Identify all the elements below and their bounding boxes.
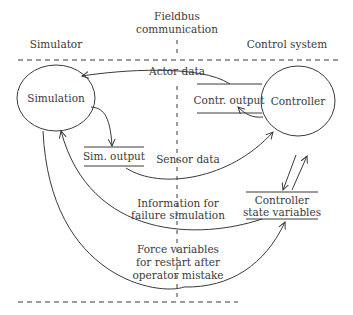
contr-output-label: Contr. output bbox=[194, 94, 266, 106]
simulation-label: Simulation bbox=[27, 92, 85, 104]
failure-info-label-line1: Information for bbox=[137, 197, 220, 209]
actor-data-label: Actor data bbox=[148, 65, 205, 77]
sensor-data-label: Sensor data bbox=[156, 153, 220, 165]
controller-to-output-arrow bbox=[238, 107, 263, 117]
dataflow-diagram: Simulator Fieldbus communication Control… bbox=[0, 0, 353, 315]
region-label-control-system: Control system bbox=[247, 38, 328, 50]
force-variables-label-line2: for restart after bbox=[136, 256, 221, 268]
sim-output-store: Sim. output bbox=[83, 147, 146, 166]
force-variables-label-line1: Force variables bbox=[137, 243, 219, 255]
force-variables-label-line3: operator mistake bbox=[132, 269, 223, 281]
simulation-to-output-arrow bbox=[91, 107, 112, 146]
controller-label: Controller bbox=[271, 95, 327, 107]
region-label-fieldbus-line1: Fieldbus bbox=[154, 10, 200, 22]
controller-node: Controller bbox=[261, 66, 335, 136]
controller-state-store: Controller state variables bbox=[243, 192, 321, 219]
failure-info-label-line2: failure simulation bbox=[131, 209, 225, 221]
contr-output-store: Contr. output bbox=[194, 84, 266, 113]
sim-output-label: Sim. output bbox=[83, 150, 146, 162]
region-label-fieldbus-line2: communication bbox=[136, 23, 218, 35]
region-label-simulator: Simulator bbox=[30, 38, 83, 50]
controller-state-label-line1: Controller bbox=[255, 194, 311, 206]
simulation-node: Simulation bbox=[17, 65, 95, 131]
controller-state-label-line2: state variables bbox=[243, 206, 321, 218]
